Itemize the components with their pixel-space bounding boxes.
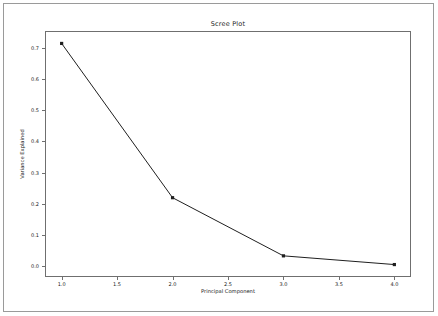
plot-series-layer — [0, 0, 438, 316]
data-point-marker — [171, 196, 174, 199]
data-point-marker — [60, 42, 63, 45]
data-point-marker — [282, 254, 285, 257]
variance-markers — [60, 42, 396, 266]
figure-canvas: Scree Plot 0.00.10.20.30.40.50.60.7 1.01… — [0, 0, 438, 316]
x-axis-label: Principal Component — [45, 288, 411, 294]
variance-line — [62, 43, 395, 264]
scree-plot-chart: Scree Plot 0.00.10.20.30.40.50.60.7 1.01… — [0, 0, 438, 316]
data-point-marker — [393, 263, 396, 266]
y-axis-label: Variance Explained — [19, 129, 25, 179]
